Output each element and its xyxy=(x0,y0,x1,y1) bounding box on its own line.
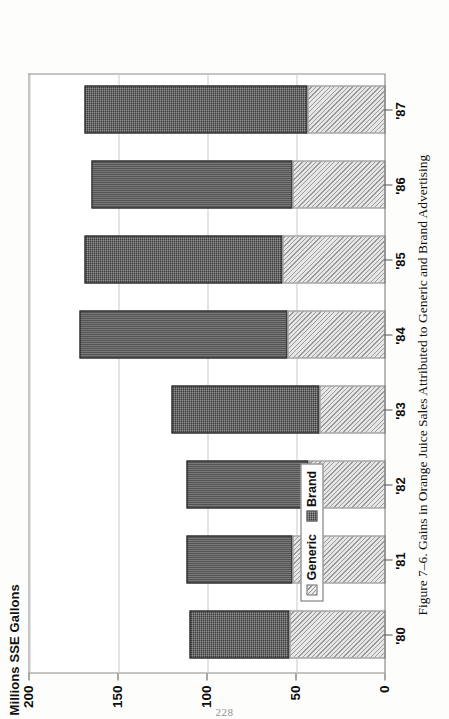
legend-label-brand: Brand xyxy=(304,470,318,506)
category-axis-tick xyxy=(384,335,392,336)
bar-segment-generic xyxy=(307,86,385,134)
figure-inner: Millions SSE Gallons 050100150200 '80'81… xyxy=(0,0,449,719)
bar-stack xyxy=(186,461,385,509)
bar-segment-generic xyxy=(319,386,385,434)
category-axis-tick xyxy=(384,185,392,186)
rotated-figure-wrapper: Millions SSE Gallons 050100150200 '80'81… xyxy=(0,0,449,719)
category-axis-label: '81 xyxy=(392,552,407,570)
legend-swatch-brand-icon xyxy=(306,510,317,521)
bar-stack xyxy=(84,236,385,284)
bar-group xyxy=(29,311,385,359)
bar-segment-brand xyxy=(84,236,282,284)
bar-segment-brand xyxy=(186,461,309,509)
bar-group xyxy=(29,461,385,509)
category-axis-tick xyxy=(384,635,392,636)
chart-legend: Generic Brand xyxy=(300,463,323,601)
bar-group xyxy=(29,536,385,584)
value-axis-tick xyxy=(206,673,207,680)
category-axis-label: '83 xyxy=(392,402,407,420)
bar-stack xyxy=(91,161,385,209)
legend-item-generic: Generic xyxy=(304,533,318,595)
legend-item-brand: Brand xyxy=(304,470,318,521)
legend-label-generic: Generic xyxy=(304,533,318,580)
value-axis-title: Millions SSE Gallons xyxy=(6,584,21,715)
legend-swatch-generic-icon xyxy=(306,584,317,595)
category-axis-label: '87 xyxy=(392,102,407,120)
bar-segment-generic xyxy=(292,161,385,209)
page-number: 228 xyxy=(0,706,449,718)
bar-stack xyxy=(79,311,385,359)
value-axis-tick xyxy=(384,673,385,680)
category-axis-tick xyxy=(384,485,392,486)
category-axis-line xyxy=(384,73,385,673)
category-axis-tick xyxy=(384,110,392,111)
bar-segment-generic xyxy=(287,311,385,359)
bar-segment-brand xyxy=(186,536,293,584)
bar-segment-brand xyxy=(171,386,319,434)
bar-segment-brand xyxy=(84,86,307,134)
bar-segment-brand xyxy=(79,311,287,359)
category-axis-tick xyxy=(384,410,392,411)
bar-stack xyxy=(171,386,385,434)
category-axis-label: '85 xyxy=(392,252,407,270)
category-axis-tick xyxy=(384,260,392,261)
bar-group xyxy=(29,611,385,659)
plot-area xyxy=(28,73,384,673)
bar-group xyxy=(29,161,385,209)
category-axis-label: '80 xyxy=(392,627,407,645)
figure-caption: Figure 7–6. Gains in Orange Juice Sales … xyxy=(414,154,430,615)
bar-group xyxy=(29,236,385,284)
bar-segment-brand xyxy=(91,161,292,209)
value-axis-tick xyxy=(295,673,296,680)
bar-segment-generic xyxy=(289,611,385,659)
category-axis-label: '84 xyxy=(392,327,407,345)
category-axis-label: '86 xyxy=(392,177,407,195)
figure-page: Millions SSE Gallons 050100150200 '80'81… xyxy=(0,0,449,719)
value-axis-tick xyxy=(117,673,118,680)
value-axis-tick xyxy=(28,673,29,680)
bar-group xyxy=(29,86,385,134)
category-axis-label: '82 xyxy=(392,477,407,495)
bar-group xyxy=(29,386,385,434)
bar-stack xyxy=(186,536,385,584)
bar-stack xyxy=(189,611,385,659)
bar-segment-brand xyxy=(189,611,289,659)
bar-segment-generic xyxy=(282,236,385,284)
bar-stack xyxy=(84,86,385,134)
category-axis-tick xyxy=(384,560,392,561)
